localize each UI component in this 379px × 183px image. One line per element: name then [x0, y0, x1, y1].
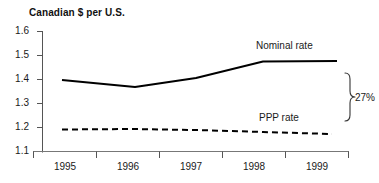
x-axis-label-1996: 1996	[106, 161, 150, 172]
series-label-nominal-rate: Nominal rate	[256, 40, 313, 51]
y-axis-label-1-4: 1.4	[5, 73, 29, 84]
gap-brace-icon	[345, 73, 355, 121]
y-axis-label-1-2: 1.2	[5, 121, 29, 132]
y-axis-label-1-6: 1.6	[5, 25, 29, 36]
x-axis-ticks	[34, 152, 349, 159]
x-axis-label-1999: 1999	[295, 161, 339, 172]
x-axis-label-1998: 1998	[232, 161, 276, 172]
chart-figure: Canadian $ per U.S.	[0, 0, 379, 183]
y-axis-label-1-1: 1.1	[5, 145, 29, 156]
y-axis-label-1-3: 1.3	[5, 97, 29, 108]
series-line-nominal-rate	[62, 61, 337, 87]
plot-area	[0, 0, 379, 183]
series-line-ppp-rate	[62, 129, 332, 134]
series-label-ppp-rate: PPP rate	[259, 112, 299, 123]
y-axis-label-1-5: 1.5	[5, 49, 29, 60]
y-axis-ticks	[37, 32, 43, 152]
gap-annotation-label: 27%	[355, 92, 375, 103]
x-axis-label-1997: 1997	[169, 161, 213, 172]
x-axis-label-1995: 1995	[43, 161, 87, 172]
